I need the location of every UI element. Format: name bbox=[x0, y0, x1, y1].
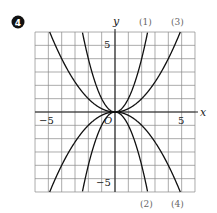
y-tick-pos5: 5 bbox=[104, 39, 110, 50]
badge-number: 4 bbox=[15, 18, 21, 28]
x-tick-neg5: −5 bbox=[39, 115, 54, 126]
y-axis-label: y bbox=[112, 15, 120, 28]
curve-label-1: (1) bbox=[139, 17, 152, 27]
parabola-chart: 4 y x O −5 5 5 −5 (1) (3) (2) (4) bbox=[0, 0, 217, 213]
curve-label-2: (2) bbox=[140, 199, 153, 209]
origin-label: O bbox=[104, 115, 112, 126]
curve-label-4: (4) bbox=[171, 199, 184, 209]
x-tick-pos5: 5 bbox=[178, 115, 184, 126]
y-tick-neg5: −5 bbox=[96, 177, 111, 188]
x-axis-label: x bbox=[200, 106, 207, 119]
problem-badge: 4 bbox=[12, 16, 25, 29]
curve-label-3: (3) bbox=[171, 17, 184, 27]
